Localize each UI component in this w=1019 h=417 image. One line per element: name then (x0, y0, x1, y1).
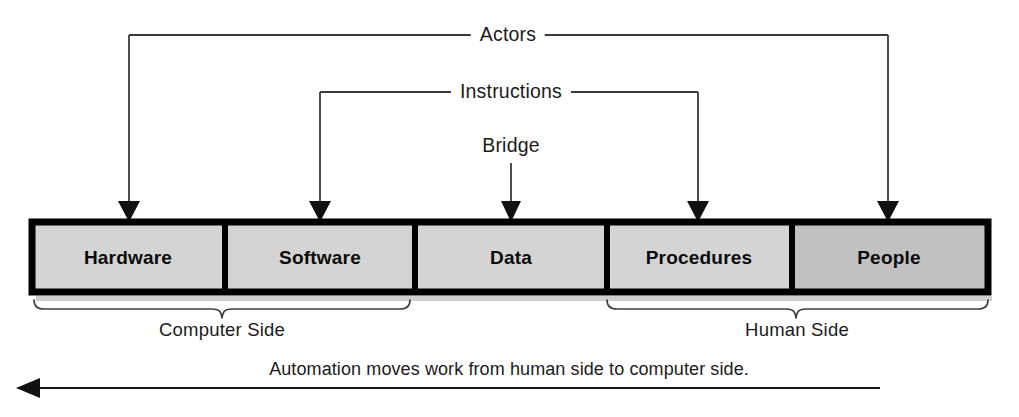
component-label-software: Software (279, 247, 361, 269)
bar-drop-shadow (36, 296, 992, 301)
connector-label-bridge: Bridge (473, 136, 549, 156)
diagram-canvas: Actors Instructions Bridge Hardware Soft… (0, 0, 1019, 417)
component-label-data: Data (490, 247, 532, 269)
connector-bridge (501, 163, 521, 222)
automation-arrow-head-left (16, 378, 40, 398)
component-label-hardware: Hardware (84, 247, 172, 269)
automation-arrow (16, 378, 880, 398)
component-label-procedures: Procedures (646, 247, 753, 269)
brace-computer-side-path (34, 300, 410, 318)
component-label-people: People (857, 247, 921, 269)
connector-actors (118, 35, 899, 222)
diagram-graphics (0, 0, 1019, 417)
automation-caption: Automation moves work from human side to… (269, 360, 749, 378)
connector-label-actors: Actors (471, 25, 545, 45)
group-label-computer-side: Computer Side (159, 321, 285, 340)
brace-human-side (607, 300, 988, 318)
connector-label-instructions: Instructions (451, 82, 571, 102)
brace-computer-side (34, 300, 410, 318)
group-label-human-side: Human Side (745, 321, 849, 340)
brace-human-side-path (607, 300, 988, 318)
